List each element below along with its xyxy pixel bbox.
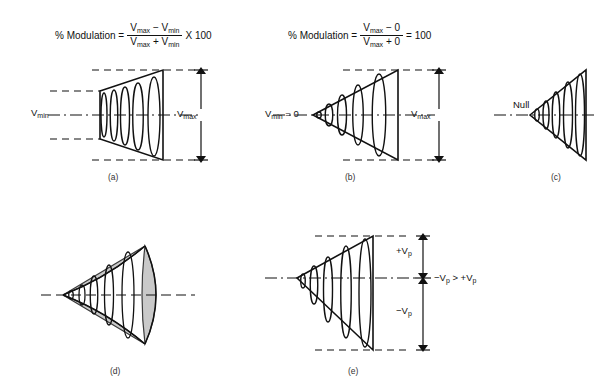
formula-a-tail: X 100 [185,30,211,41]
panel-a [30,60,260,178]
panel-a-carrier-waves [101,77,160,156]
panel-d-caption: (d) [110,366,120,376]
formula-a-numerator: Vmax − Vmin [127,22,182,35]
formula-b: % Modulation = Vmax − 0 Vmax + 0 = 100 [288,22,431,49]
formula-a-denominator: Vmax + Vmin [127,35,182,49]
formula-b-tail: = 100 [406,30,431,41]
panel-a-caption: (a) [108,172,118,182]
formula-a-lead: % Modulation = [55,30,124,41]
panel-e-vp-pos-label: +Vp [396,245,412,257]
panel-b-vmin-label: Vmin = 0 [265,108,299,120]
panel-e-caption: (e) [348,366,358,376]
panel-e-vp-neg-arrow [416,277,430,352]
panel-e-carrier-waves [301,239,371,347]
panel-e-relation-label: −Vp > +Vp [434,272,476,284]
panel-e [255,228,495,363]
formula-b-denominator: Vmax + 0 [360,35,403,49]
panel-e-vp-neg-label: −Vp [396,305,412,317]
formula-b-lead: % Modulation = [288,30,357,41]
panel-e-vp-pos-arrow [415,233,431,280]
panel-a-vmin-label: Vmin [31,107,49,119]
formula-b-fraction: Vmax − 0 Vmax + 0 [360,22,403,49]
panel-c-null-label: Null [513,99,529,110]
formula-b-numerator: Vmax − 0 [360,22,403,35]
panel-c-caption: (c) [551,172,561,182]
formula-a: % Modulation = Vmax − Vmin Vmax + Vmin X… [55,22,212,49]
panel-c [488,60,613,178]
panel-b-vmax-label: Vmax [411,108,431,120]
panel-e-envelope [297,236,373,350]
panel-d [35,228,230,363]
panel-a-vmax-label: Vmax [177,108,197,120]
formula-a-fraction: Vmax − Vmin Vmax + Vmin [127,22,182,49]
panel-b-caption: (b) [345,172,355,182]
